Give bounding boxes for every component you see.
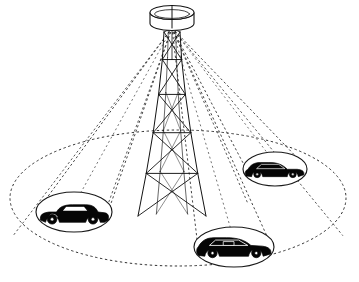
tower-leg-left [138,173,146,216]
beam-left [43,28,172,221]
tower-leg-back-right [184,171,188,214]
coverage-cone-edge [172,28,247,202]
beam-left-edge [105,28,172,221]
tower-brace [153,133,198,174]
car-wheel-hub [292,173,294,175]
tower-brace-back [160,131,181,172]
vehicle-left [36,192,112,232]
tower-brace [162,32,180,60]
tower-leg-back-right [176,30,177,58]
car-wheel-hub [91,218,95,222]
vehicle-right [243,152,307,186]
tower-leg-right [191,133,198,174]
tower-brace [146,133,191,174]
beam-bottom-edge [172,28,269,241]
tower-brace-back [156,171,183,214]
car-wheel-hub [256,173,258,175]
beam-left-axis [74,28,172,205]
diagram-canvas [0,0,359,282]
car-wheel-hub [255,251,258,254]
vehicles [36,152,307,267]
tower-lattice [138,26,206,216]
tower-brace-back [163,131,184,172]
beam-left-edge [43,28,172,203]
car-trim [223,242,234,246]
tower-brace [146,173,206,216]
car-wheel-hub [211,251,214,254]
tower-leg-right [198,173,206,216]
tower-brace [138,173,198,216]
tower-leg-left [146,133,153,174]
beam-right-axis [172,28,275,163]
beam-right-edge [172,28,251,179]
tower-leg-back-left [160,131,163,172]
coverage-cone-edge [172,28,343,235]
car-cabin-window [62,206,89,211]
antenna-drum [150,6,194,31]
tower-coverage-illustration [0,0,359,282]
radar-tower [138,6,206,217]
vehicle-bottom [194,227,274,267]
tower-leg-back-right [181,131,184,172]
tower-brace-back [160,171,187,214]
car-wheel-hub [50,218,54,222]
tower-leg-back-left [168,30,169,58]
tower-leg-back-left [156,171,160,214]
tower-leg-back-left [166,58,168,93]
